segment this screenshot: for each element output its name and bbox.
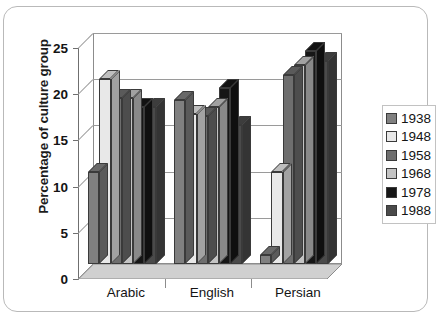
depth-connector-line xyxy=(78,79,94,95)
y-axis-tick-label: 25 xyxy=(53,41,68,56)
bar-side-face xyxy=(230,79,239,264)
bar-side-face xyxy=(144,98,153,264)
legend-item-1968: 1968 xyxy=(386,165,431,184)
y-axis-tick-label: 20 xyxy=(53,87,68,102)
depth-connector-line xyxy=(78,33,94,49)
bar-side-face xyxy=(99,163,108,264)
legend-item-1958: 1958 xyxy=(386,146,431,165)
bar-arabic-1938 xyxy=(88,172,99,264)
legend-swatch-icon xyxy=(386,131,397,142)
bar-front-face xyxy=(88,172,99,264)
bar-side-face xyxy=(133,89,142,264)
legend-swatch-icon xyxy=(386,205,397,216)
bar-side-face xyxy=(219,98,228,264)
bar-side-face xyxy=(283,163,292,264)
bar-side-face xyxy=(111,70,120,264)
bar-side-face xyxy=(294,66,303,264)
x-axis-category-label: Arabic xyxy=(107,285,145,300)
bar-side-face xyxy=(208,107,217,264)
legend-item-1948: 1948 xyxy=(386,128,431,147)
legend-swatch-icon xyxy=(386,113,397,124)
bar-side-face xyxy=(185,91,194,264)
legend-label: 1978 xyxy=(401,186,431,200)
y-axis-line xyxy=(78,48,79,279)
legend-label: 1988 xyxy=(401,204,431,218)
legend-label: 1968 xyxy=(401,167,431,181)
legend-item-1978: 1978 xyxy=(386,183,431,202)
legend-label: 1958 xyxy=(401,149,431,163)
y-axis-title: Percentage of culture group xyxy=(36,32,51,222)
bar-front-face xyxy=(174,100,185,264)
gridline xyxy=(93,33,342,34)
y-axis-tick-label: 0 xyxy=(60,272,68,287)
y-axis-tick-label: 5 xyxy=(60,225,68,240)
x-axis-category-label: English xyxy=(190,285,234,300)
legend-item-1938: 1938 xyxy=(386,109,431,128)
chart-frame: Percentage of culture group 0510152025 A… xyxy=(3,6,428,312)
legend-swatch-icon xyxy=(386,187,397,198)
bar-front-face xyxy=(260,255,271,264)
bar-side-face xyxy=(197,105,206,264)
chart-floor xyxy=(78,264,342,279)
bar-side-face xyxy=(156,98,165,264)
chart-legend: 193819481958196819781988 xyxy=(382,105,436,224)
bar-side-face xyxy=(328,52,337,264)
legend-label: 1938 xyxy=(401,112,431,126)
depth-connector-line xyxy=(78,126,94,142)
bar-persian-1938 xyxy=(260,255,271,264)
y-axis-tick-label: 10 xyxy=(53,179,68,194)
legend-swatch-icon xyxy=(386,150,397,161)
bar-english-1938 xyxy=(174,100,185,264)
plot-area: 0510152025 ArabicEnglishPersian xyxy=(78,33,342,278)
bar-side-face xyxy=(242,116,251,264)
x-axis-separator-tick xyxy=(251,279,252,288)
bar-side-face xyxy=(122,89,131,264)
legend-item-1988: 1988 xyxy=(386,202,431,221)
x-axis-category-label: Persian xyxy=(275,285,321,300)
x-axis-separator-tick xyxy=(165,279,166,288)
y-axis-tick-label: 15 xyxy=(53,133,68,148)
bar-side-face xyxy=(305,56,314,264)
bar-side-face xyxy=(316,42,325,264)
legend-swatch-icon xyxy=(386,168,397,179)
legend-label: 1948 xyxy=(401,130,431,144)
